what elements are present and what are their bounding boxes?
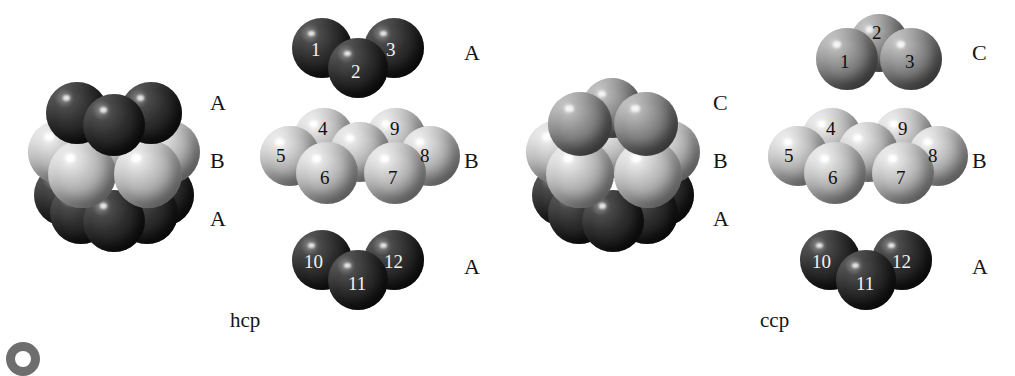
- ccp-exploded-label-a: A: [972, 256, 988, 278]
- hcp-cluster-label-a-bottom: A: [210, 208, 226, 230]
- sphere-number-3: 3: [386, 40, 396, 59]
- sphere-number-5: 5: [784, 146, 794, 165]
- hcp-cluster-label-b: B: [210, 150, 225, 172]
- sphere-number-8: 8: [928, 146, 938, 165]
- sphere-number-7: 7: [388, 168, 398, 187]
- sphere-number-6: 6: [828, 168, 838, 187]
- hcp-exploded-label-a-bottom: A: [464, 256, 480, 278]
- sphere-number-10: 10: [812, 252, 831, 271]
- sphere-number-11: 11: [856, 274, 874, 293]
- hcp-exploded-layer-a-top: 1 2 3: [268, 14, 448, 94]
- sphere-number-3: 3: [905, 52, 915, 71]
- hcp-exploded-layer-a-bottom: 10 11 12: [280, 228, 460, 312]
- hcp-exploded-layer-b: 4 9 5 8 6 7: [260, 108, 470, 208]
- ccp-exploded-label-b: B: [972, 150, 987, 172]
- hcp-cluster: [28, 78, 203, 248]
- hcp-cluster-label-a-top: A: [210, 92, 226, 114]
- page-corner-mark: [6, 342, 40, 376]
- sphere-number-1: 1: [840, 52, 850, 71]
- sphere-number-2: 2: [351, 62, 361, 81]
- hcp-exploded-label-a-top: A: [464, 42, 480, 64]
- sphere-number-4: 4: [826, 119, 836, 138]
- sphere-number-8: 8: [420, 146, 430, 165]
- ccp-cluster-label-c: C: [713, 92, 728, 114]
- sphere-number-10: 10: [304, 252, 323, 271]
- ccp-cluster-label-a: A: [713, 208, 729, 230]
- cluster-sphere: [548, 92, 612, 156]
- hcp-exploded-label-b: B: [464, 150, 479, 172]
- sphere-number-9: 9: [390, 119, 400, 138]
- sphere-number-4: 4: [318, 119, 328, 138]
- ccp-cluster-label-b: B: [713, 150, 728, 172]
- cluster-sphere: [614, 92, 678, 156]
- sphere-number-11: 11: [348, 274, 366, 293]
- ccp-exploded-layer-a-bottom: 10 11 12: [788, 228, 968, 312]
- cluster-sphere: [83, 94, 145, 156]
- ccp-exploded-layer-c-top: 2 1 3: [812, 14, 972, 94]
- sphere-number-2: 2: [872, 23, 882, 42]
- sphere-number-7: 7: [896, 168, 906, 187]
- sphere-number-1: 1: [311, 40, 321, 59]
- sphere-number-9: 9: [898, 119, 908, 138]
- sphere-number-12: 12: [384, 252, 403, 271]
- panel-hcp: A B A 1 2 3 4: [0, 0, 507, 360]
- ccp-exploded-layer-b: 4 9 5 8 6 7: [768, 108, 978, 208]
- sphere-number-6: 6: [320, 168, 330, 187]
- ccp-caption: ccp: [760, 310, 789, 331]
- sphere-number-5: 5: [276, 146, 286, 165]
- ccp-exploded-label-c: C: [972, 42, 987, 64]
- panel-ccp: C B A 2 1 3 4: [508, 0, 1015, 360]
- hcp-caption: hcp: [230, 310, 260, 331]
- sphere-number-12: 12: [892, 252, 911, 271]
- ccp-cluster: [526, 78, 704, 250]
